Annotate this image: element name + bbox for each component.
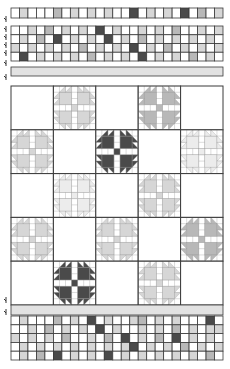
patch-square [62,342,70,351]
patch-square [164,26,172,35]
patch-square [36,334,44,343]
plain-block [11,86,53,130]
patch-square [79,26,87,35]
patch-square [87,35,95,44]
bears-paw-block [181,130,223,174]
bears-paw-block [53,261,95,305]
patch-square [121,342,129,351]
patch-square [104,44,112,53]
patch-square [172,8,180,18]
patch-square [130,44,138,53]
patch-square [121,316,129,325]
patch-square [121,52,129,61]
patch-square [155,325,163,334]
patch-square [215,342,223,351]
patch-square [172,316,180,325]
patch-square [19,316,27,325]
patch-square [181,316,189,325]
patch-square [70,35,78,44]
patch-square [147,325,155,334]
patch-square [138,316,146,325]
patch-square [19,334,27,343]
patch-square [104,316,112,325]
patch-square [79,44,87,53]
patch-square [215,52,223,61]
patch-square [138,342,146,351]
patch-square [189,325,197,334]
patch-square [96,35,104,44]
patch-square [130,342,138,351]
patch-square [147,351,155,360]
patch-square [19,44,27,53]
patch-square [96,325,104,334]
patch-square [130,325,138,334]
patch-square [70,44,78,53]
patch-square [113,351,121,360]
patch-square [62,26,70,35]
patch-square [138,334,146,343]
bears-paw-block [96,217,138,261]
patch-square [62,334,70,343]
patch-square [62,351,70,360]
patch-square [70,325,78,334]
patch-square [79,334,87,343]
patch-square [147,316,155,325]
measure-arrow-icon [4,60,6,66]
patch-square [215,316,223,325]
patch-square [164,52,172,61]
patch-square [36,35,44,44]
patch-square [206,8,214,18]
patch-square [206,52,214,61]
top-strip [11,8,223,18]
plain-block [181,261,223,305]
patch-square [206,316,214,325]
patch-square [138,44,146,53]
plain-block [11,261,53,305]
patch-square [53,52,61,61]
patch-square [198,44,206,53]
patch-square [53,351,61,360]
patch-square [189,334,197,343]
plain-block [96,261,138,305]
patch-square [164,325,172,334]
patch-square [19,35,27,44]
patch-square [113,334,121,343]
plain-block [96,86,138,130]
patch-square [189,26,197,35]
patch-square [206,342,214,351]
patch-square [53,26,61,35]
patch-square [53,35,61,44]
patch-square [36,342,44,351]
patch-square [147,35,155,44]
patch-square [104,8,112,18]
patch-square [198,52,206,61]
patch-square [19,8,27,18]
patch-square [121,334,129,343]
patch-square [53,342,61,351]
patch-square [19,26,27,35]
patch-square [96,44,104,53]
patch-square [79,342,87,351]
patch-square [181,334,189,343]
bears-paw-block [138,174,180,218]
patch-square [45,334,53,343]
patch-square [206,44,214,53]
patch-square [121,351,129,360]
patch-square [28,342,36,351]
bottom-patch-band [11,316,223,360]
patch-square [181,35,189,44]
patch-square [155,342,163,351]
inner-border-strip [11,67,223,76]
patch-square [172,351,180,360]
patch-square [113,26,121,35]
patch-square [36,44,44,53]
patch-square [181,325,189,334]
patch-square [70,334,78,343]
patch-square [138,325,146,334]
patch-square [11,8,19,18]
patch-square [36,316,44,325]
patch-square [104,35,112,44]
patch-square [181,342,189,351]
patch-square [121,325,129,334]
patch-square [79,316,87,325]
